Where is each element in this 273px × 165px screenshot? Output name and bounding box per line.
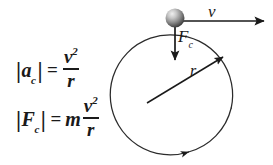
velocity-label: v xyxy=(208,2,216,22)
radius-label: r xyxy=(190,62,196,80)
force-subscript: c xyxy=(34,123,39,135)
equals-sign: = xyxy=(50,108,61,130)
v-squared-over-r-fraction: v2r xyxy=(62,47,80,91)
fraction-denominator: r xyxy=(62,70,80,91)
equation-centripetal-force: |Fc|=mv2r xyxy=(16,97,100,141)
exponent: 2 xyxy=(92,94,98,106)
force-label: Fc xyxy=(178,27,193,48)
force-magnitude-term: |Fc| xyxy=(16,106,46,133)
right-bar: | xyxy=(37,58,43,83)
orbiting-mass xyxy=(166,9,185,28)
acceleration-magnitude-term: |ac| xyxy=(16,57,43,84)
fraction-numerator: v2 xyxy=(62,47,80,68)
physics-figure: v Fc r |ac|=v2r |Fc|=mv2r xyxy=(0,0,273,165)
fraction-denominator: r xyxy=(82,119,100,140)
equals-sign: = xyxy=(47,59,58,81)
mass-symbol: m xyxy=(65,108,81,131)
v-squared-over-r-fraction: v2r xyxy=(82,96,100,140)
right-bar: | xyxy=(41,107,47,132)
left-bar: | xyxy=(16,58,22,83)
equation-centripetal-acceleration: |ac|=v2r xyxy=(16,48,80,92)
fraction-numerator: v2 xyxy=(82,96,100,117)
radius-arrow xyxy=(147,57,223,103)
orbit-path xyxy=(110,35,232,155)
force-label-subscript: c xyxy=(188,39,192,50)
exponent: 2 xyxy=(72,45,78,57)
left-bar: | xyxy=(16,107,22,132)
acceleration-subscript: c xyxy=(31,74,36,86)
